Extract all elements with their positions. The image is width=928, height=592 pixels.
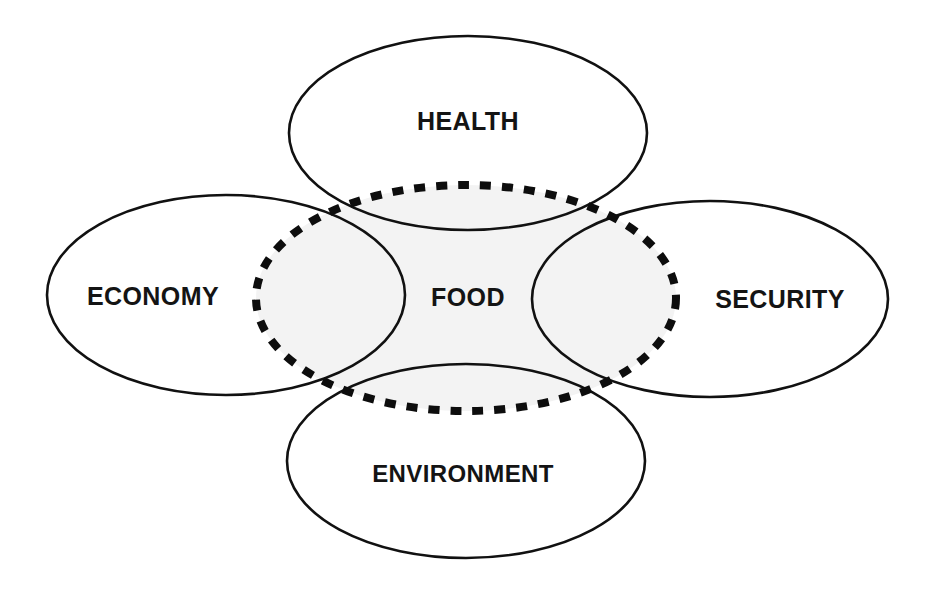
label-economy: ECONOMY xyxy=(87,282,219,310)
label-health: HEALTH xyxy=(417,107,519,135)
venn-diagram-canvas: HEALTH ECONOMY SECURITY ENVIRONMENT FOOD xyxy=(0,0,928,592)
label-environment: ENVIRONMENT xyxy=(372,460,554,487)
label-security: SECURITY xyxy=(715,285,845,313)
venn-diagram-svg: HEALTH ECONOMY SECURITY ENVIRONMENT FOOD xyxy=(0,0,928,592)
label-food: FOOD xyxy=(431,283,505,311)
